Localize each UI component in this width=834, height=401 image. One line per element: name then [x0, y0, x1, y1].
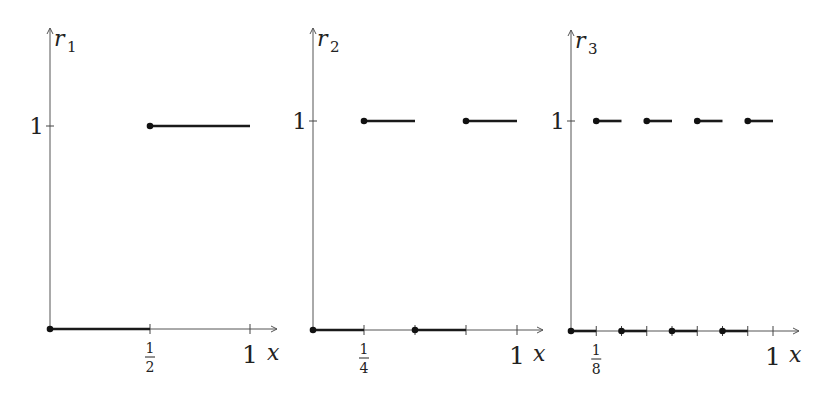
- closed-endpoint-dot: [744, 118, 751, 125]
- y-axis-label: r: [317, 26, 329, 51]
- closed-endpoint-dot: [618, 328, 625, 335]
- closed-endpoint-dot: [593, 118, 600, 125]
- x-tick-label-numerator: 1: [360, 341, 369, 357]
- closed-endpoint-dot: [412, 327, 419, 334]
- y-tick-label: 1: [550, 108, 565, 134]
- x-tick-label-denominator: 2: [146, 359, 155, 375]
- closed-endpoint-dot: [568, 328, 575, 335]
- y-axis-label: r: [54, 26, 66, 51]
- y-axis-label: r: [575, 28, 587, 53]
- x-tick-label-denominator: 8: [592, 361, 601, 377]
- x-tick-label-denominator: 4: [360, 360, 369, 376]
- rademacher-plots: 1121xr1 1141xr2 1181xr3: [0, 0, 834, 401]
- x-tick-label-numerator: 1: [146, 340, 155, 356]
- plot-r1: 1121xr1: [29, 26, 280, 375]
- plot-r3: 1181xr3: [550, 28, 802, 377]
- closed-endpoint-dot: [463, 118, 470, 125]
- y-tick-label: 1: [29, 113, 44, 139]
- y-axis-label-subscript: 3: [588, 40, 598, 58]
- closed-endpoint-dot: [310, 327, 317, 334]
- closed-endpoint-dot: [361, 118, 368, 125]
- x-tick-label: 1: [242, 340, 258, 369]
- x-tick-label: 1: [509, 341, 525, 370]
- closed-endpoint-dot: [719, 328, 726, 335]
- x-tick-label-numerator: 1: [592, 342, 601, 358]
- closed-endpoint-dot: [47, 326, 54, 333]
- closed-endpoint-dot: [694, 118, 701, 125]
- closed-endpoint-dot: [147, 123, 154, 130]
- x-axis-label: x: [789, 342, 802, 367]
- plot-r2: 1141xr2: [292, 26, 546, 376]
- x-axis-label: x: [533, 341, 546, 366]
- closed-endpoint-dot: [643, 118, 650, 125]
- closed-endpoint-dot: [669, 328, 676, 335]
- x-tick-label: 1: [765, 342, 781, 371]
- y-axis-label-subscript: 1: [67, 38, 77, 56]
- y-tick-label: 1: [292, 108, 307, 134]
- x-axis-label: x: [267, 340, 280, 365]
- y-axis-label-subscript: 2: [330, 38, 340, 56]
